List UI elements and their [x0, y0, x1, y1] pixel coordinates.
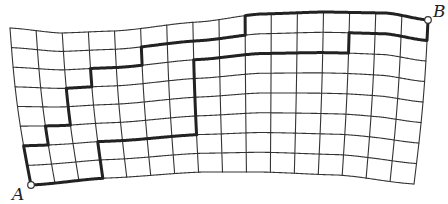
endpoints [28, 17, 432, 189]
point-a-label: A [12, 186, 24, 203]
point-a-marker [28, 182, 35, 189]
grid-canvas [0, 0, 448, 204]
grid-column-line [270, 14, 271, 172]
point-b-marker [425, 17, 432, 24]
point-b-label: B [433, 3, 446, 20]
